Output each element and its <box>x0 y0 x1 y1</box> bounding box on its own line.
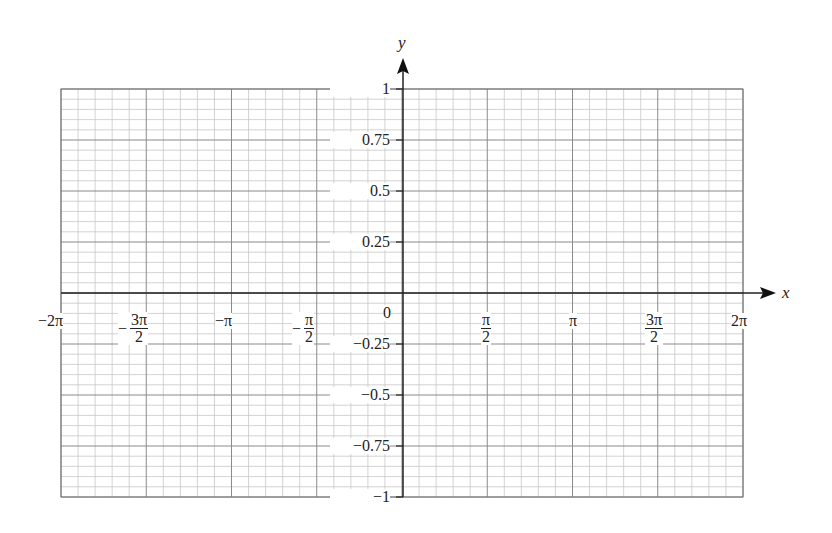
x-tick-2pi: 2π <box>731 313 747 329</box>
x-axis-label: x <box>782 283 790 303</box>
denominator: 2 <box>650 329 658 345</box>
y-tick-0.5: 0.5 <box>330 183 390 199</box>
y-tick-neg-0.75: −0.75 <box>330 438 390 454</box>
y-tick-0.75: 0.75 <box>330 132 390 148</box>
denominator: 2 <box>305 329 313 345</box>
origin-label: 0 <box>383 305 391 321</box>
numerator: 3π <box>130 312 148 329</box>
x-tick-neg-2pi: −2π <box>38 313 63 329</box>
denominator: 2 <box>482 329 490 345</box>
x-tick-neg-pi: −π <box>215 313 232 329</box>
chart-grid <box>0 0 832 533</box>
y-tick-neg-1: −1 <box>330 489 390 505</box>
y-tick-neg-0.5: −0.5 <box>330 387 390 403</box>
minus-sign: − <box>118 320 127 338</box>
numerator: 3π <box>645 312 663 329</box>
x-tick-3pi-2: 3π2 <box>645 312 663 345</box>
minus-sign: − <box>292 320 301 338</box>
x-tick-neg-pi-2: − π2 <box>292 312 314 345</box>
y-tick-neg-0.25: −0.25 <box>330 336 390 352</box>
y-tick-1: 1 <box>330 81 390 97</box>
denominator: 2 <box>135 329 143 345</box>
numerator: π <box>481 312 491 329</box>
y-axis-label: y <box>398 33 406 53</box>
x-tick-neg-3pi-2: − 3π2 <box>118 312 148 345</box>
y-tick-0.25: 0.25 <box>330 234 390 250</box>
x-tick-pi: π <box>569 313 577 329</box>
numerator: π <box>304 312 314 329</box>
x-tick-pi-2: π2 <box>481 312 491 345</box>
